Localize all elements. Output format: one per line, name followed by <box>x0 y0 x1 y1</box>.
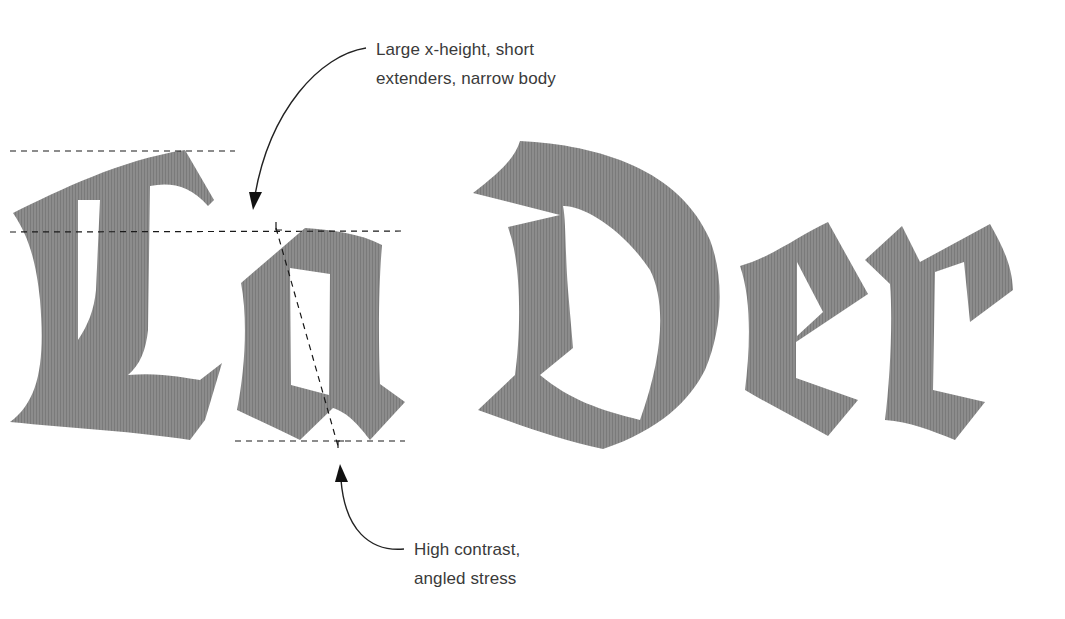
arrowhead-icon <box>335 464 348 482</box>
annotation-top: Large x-height, short extenders, narrow … <box>376 35 556 93</box>
typography-diagram: Large x-height, short extenders, narrow … <box>0 0 1065 619</box>
glyph-L <box>10 150 222 440</box>
annotation-bottom: High contrast, angled stress <box>414 535 520 593</box>
glyph-r <box>865 224 1013 440</box>
annotation-bottom-line-1: High contrast, <box>414 535 520 564</box>
glyph-e <box>740 222 868 436</box>
annotation-top-line-1: Large x-height, short <box>376 35 556 64</box>
top-callout-arrow <box>249 48 366 210</box>
annotation-bottom-line-2: angled stress <box>414 564 520 593</box>
glyph-D <box>473 141 720 449</box>
glyph-a <box>237 228 405 440</box>
arrowhead-icon <box>249 192 262 210</box>
annotation-top-line-2: extenders, narrow body <box>376 64 556 93</box>
bottom-callout-arrow <box>335 464 404 549</box>
